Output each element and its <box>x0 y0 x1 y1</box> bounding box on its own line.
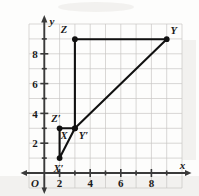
vertex-dot-Z <box>72 36 78 42</box>
y-tick-label-6: 6 <box>32 78 38 90</box>
vertex-label-Y-prime: Y′ <box>79 130 88 141</box>
y-axis-label: y <box>48 15 55 27</box>
vertex-dot-Y <box>164 36 170 42</box>
y-tick-label-2: 2 <box>32 137 38 149</box>
x-tick-label-6: 6 <box>118 177 124 189</box>
vertex-label-Y: Y <box>170 25 178 36</box>
y-tick-label-8: 8 <box>32 48 38 60</box>
vertex-dot-Z-prime <box>57 125 63 131</box>
x-axis-arrow-left <box>21 170 28 176</box>
grid-lines <box>29 24 182 188</box>
scan-artifacts <box>0 2 199 196</box>
vertex-dot-X-prime <box>57 155 63 161</box>
origin-label: O <box>31 177 39 189</box>
vertex-label-Z: Z <box>60 24 68 35</box>
x-tick-label-4: 4 <box>87 177 93 189</box>
vertex-label-Z-prime: Z′ <box>50 113 60 124</box>
coordinate-plane-figure: 2 4 6 8 2 4 6 8 y x O X Y Z <box>0 0 199 196</box>
x-tick-label-2: 2 <box>57 177 63 189</box>
x-axis-arrow-right <box>185 170 192 176</box>
small-triangle-X-prime-Y-prime-Z-prime: X′ Y′ Z′ <box>50 113 88 174</box>
vertex-label-X: X <box>59 130 68 141</box>
vertex-dot-Y-prime <box>72 125 78 131</box>
y-tick-label-4: 4 <box>32 108 38 120</box>
large-triangle-XYZ: X Y Z <box>59 24 178 141</box>
vertex-label-X-prime: X′ <box>53 163 64 174</box>
y-axis-arrow-up <box>41 15 47 23</box>
coordinate-graph: 2 4 6 8 2 4 6 8 y x O X Y Z <box>0 0 199 196</box>
x-axis-label: x <box>179 159 186 171</box>
x-tick-label-8: 8 <box>149 177 155 189</box>
